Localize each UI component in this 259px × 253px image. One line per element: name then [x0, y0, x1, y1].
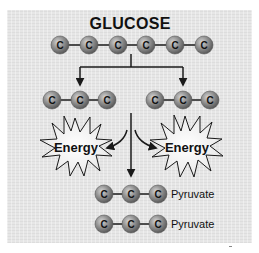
- energy-label: Energy: [54, 140, 99, 155]
- svg-text:C: C: [179, 95, 186, 106]
- carbon-atom: C: [109, 36, 127, 54]
- energy-label: Energy: [165, 140, 210, 155]
- carbon-atom: C: [95, 215, 113, 233]
- carbon-atom: C: [51, 36, 69, 54]
- svg-text:C: C: [56, 40, 63, 51]
- svg-text:C: C: [100, 219, 107, 230]
- svg-text:C: C: [48, 95, 55, 106]
- split-connector-arrows: [80, 54, 183, 85]
- svg-text:C: C: [100, 189, 107, 200]
- carbon-atom: C: [166, 36, 184, 54]
- carbon-atom: C: [137, 36, 155, 54]
- svg-text:C: C: [127, 189, 134, 200]
- carbon-atom: C: [149, 185, 167, 203]
- svg-text:C: C: [206, 95, 213, 106]
- pyruvate-label: Pyruvate: [171, 218, 214, 230]
- glucose-chain: C C C C C C: [51, 36, 213, 54]
- left-energy-burst: Energy: [40, 116, 112, 176]
- svg-text:C: C: [127, 219, 134, 230]
- central-arrows: [107, 113, 156, 176]
- carbon-atom: C: [98, 91, 116, 109]
- svg-text:C: C: [200, 40, 207, 51]
- carbon-atom: C: [71, 91, 89, 109]
- right-energy-burst: Energy: [150, 115, 223, 177]
- pyruvate-molecule: C C C Pyruvate: [95, 215, 214, 233]
- svg-text:C: C: [171, 40, 178, 51]
- carbon-atom: C: [195, 36, 213, 54]
- pyruvate-label: Pyruvate: [171, 188, 214, 200]
- svg-text:C: C: [85, 40, 92, 51]
- carbon-atom: C: [43, 91, 61, 109]
- right-three-carbon-chain: C C C: [146, 91, 219, 109]
- pyruvate-molecule: C C C Pyruvate: [95, 185, 214, 203]
- svg-text:C: C: [151, 95, 158, 106]
- carbon-atom: C: [80, 36, 98, 54]
- carbon-atom: C: [122, 215, 140, 233]
- carbon-atom: C: [95, 185, 113, 203]
- svg-text:C: C: [154, 219, 161, 230]
- carbon-atom: C: [174, 91, 192, 109]
- svg-text:C: C: [76, 95, 83, 106]
- svg-text:C: C: [142, 40, 149, 51]
- svg-text:C: C: [154, 189, 161, 200]
- carbon-atom: C: [149, 215, 167, 233]
- left-three-carbon-chain: C C C: [43, 91, 116, 109]
- glycolysis-diagram: GLUCOSE C C C C C C C C C C C C Energy E…: [0, 0, 259, 253]
- carbon-atom: C: [201, 91, 219, 109]
- carbon-atom: C: [122, 185, 140, 203]
- carbon-atom: C: [146, 91, 164, 109]
- glucose-title: GLUCOSE: [89, 15, 170, 32]
- svg-text:C: C: [114, 40, 121, 51]
- svg-text:C: C: [103, 95, 110, 106]
